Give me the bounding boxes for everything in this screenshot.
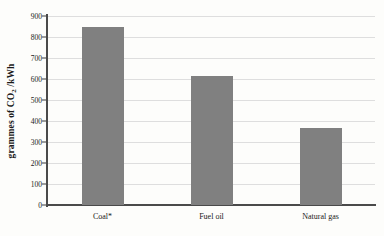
bar xyxy=(191,76,233,205)
plot-area xyxy=(48,16,375,205)
y-axis-title-text: grammes of CO2 /kWh xyxy=(6,64,18,159)
y-axis-title-subscript: 2 xyxy=(10,89,18,93)
y-axis-tick-label: 600 xyxy=(31,75,42,84)
y-axis-tick-label: 300 xyxy=(31,138,42,147)
y-axis-title-suffix: /kWh xyxy=(6,64,16,90)
bar-chart-figure: grammes of CO2 /kWh 01002003004005006007… xyxy=(0,0,384,236)
x-axis-category-label: Fuel oil xyxy=(199,212,224,221)
y-axis-tick-label: 200 xyxy=(31,159,42,168)
y-axis-tick-label: 800 xyxy=(31,33,42,42)
bar xyxy=(82,27,124,206)
y-axis-tick-label: 900 xyxy=(31,12,42,21)
x-axis-category-labels: Coal*Fuel oilNatural gas xyxy=(48,209,375,233)
y-axis-title: grammes of CO2 /kWh xyxy=(4,16,20,206)
gridline xyxy=(48,16,375,17)
y-axis-tick-label: 100 xyxy=(31,180,42,189)
y-axis-title-prefix: grammes of CO xyxy=(6,93,16,159)
x-axis-category-label: Coal* xyxy=(93,212,112,221)
y-axis-tick-label: 700 xyxy=(31,54,42,63)
y-axis-tick-label: 400 xyxy=(31,117,42,126)
x-axis-category-label: Natural gas xyxy=(302,212,339,221)
y-axis-tick-labels: 0100200300400500600700800900 xyxy=(20,0,46,236)
y-axis-tick-label: 500 xyxy=(31,96,42,105)
bar xyxy=(300,128,342,205)
